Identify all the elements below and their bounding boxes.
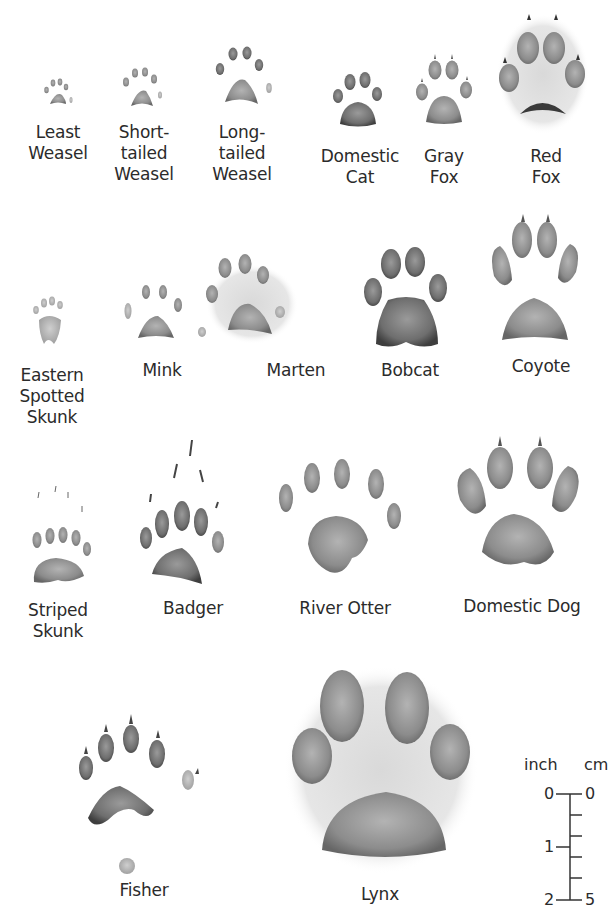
paw-print-icon (118, 278, 212, 348)
red-fox-print (496, 8, 590, 136)
paw-print-icon (120, 62, 164, 110)
scale-inch-0: 0 (544, 786, 554, 802)
label-bobcat: Bobcat (370, 360, 450, 381)
label-least-weasel: Least Weasel (18, 122, 98, 164)
label-river-otter: River Otter (280, 598, 410, 619)
paw-print-icon (282, 664, 480, 876)
label-striped-skunk: Striped Skunk (18, 600, 98, 642)
label-domestic-dog: Domestic Dog (452, 596, 592, 617)
least-weasel-print (42, 74, 78, 108)
scale-bar: inch cm 0 1 2 0 5 (512, 755, 610, 906)
bobcat-print (362, 240, 450, 350)
mink-print (118, 278, 212, 348)
badger-print (138, 438, 236, 588)
short-tailed-weasel-print (120, 62, 164, 110)
label-fisher: Fisher (104, 880, 184, 901)
striped-skunk-print (28, 488, 92, 584)
paw-print-icon (496, 8, 590, 136)
paw-print-icon (488, 210, 582, 346)
paw-print-icon (212, 40, 278, 110)
scale-cm-5: 5 (585, 892, 595, 906)
paw-print-icon (272, 444, 416, 578)
label-eastern-spotted-skunk: Eastern Spotted Skunk (12, 365, 92, 428)
paw-print-icon (74, 702, 210, 874)
scale-cm-0: 0 (585, 786, 595, 802)
label-mink: Mink (122, 360, 202, 381)
paw-print-icon (362, 240, 450, 350)
paw-print-icon (332, 68, 384, 130)
label-gray-fox: Gray Fox (410, 146, 478, 188)
long-tailed-weasel-print (212, 40, 278, 110)
fisher-print (74, 702, 210, 874)
domestic-cat-print (332, 68, 384, 130)
label-red-fox: Red Fox (506, 146, 586, 188)
paw-print-icon (42, 74, 78, 108)
label-badger: Badger (148, 598, 238, 619)
scale-inch-2: 2 (544, 892, 554, 906)
label-domestic-cat: Domestic Cat (312, 146, 408, 188)
paw-print-icon (200, 242, 294, 346)
river-otter-print (272, 444, 416, 578)
label-marten: Marten (246, 360, 346, 381)
eastern-spotted-skunk-print (32, 290, 68, 348)
domestic-dog-print (452, 434, 584, 574)
paw-print-icon (138, 438, 236, 588)
label-long-tailed-weasel: Long- tailed Weasel (202, 122, 282, 185)
gray-fox-print (414, 40, 476, 128)
ruler-icon (512, 755, 610, 906)
scale-inch-1: 1 (544, 839, 554, 855)
paw-print-icon (28, 488, 92, 584)
coyote-print (488, 210, 582, 346)
paw-print-icon (452, 434, 584, 574)
lynx-print (282, 664, 480, 876)
label-lynx: Lynx (340, 884, 420, 905)
label-coyote: Coyote (496, 356, 586, 377)
marten-print (200, 242, 294, 346)
paw-print-icon (32, 290, 68, 348)
paw-print-icon (414, 40, 476, 128)
label-short-tailed-weasel: Short- tailed Weasel (104, 122, 184, 185)
